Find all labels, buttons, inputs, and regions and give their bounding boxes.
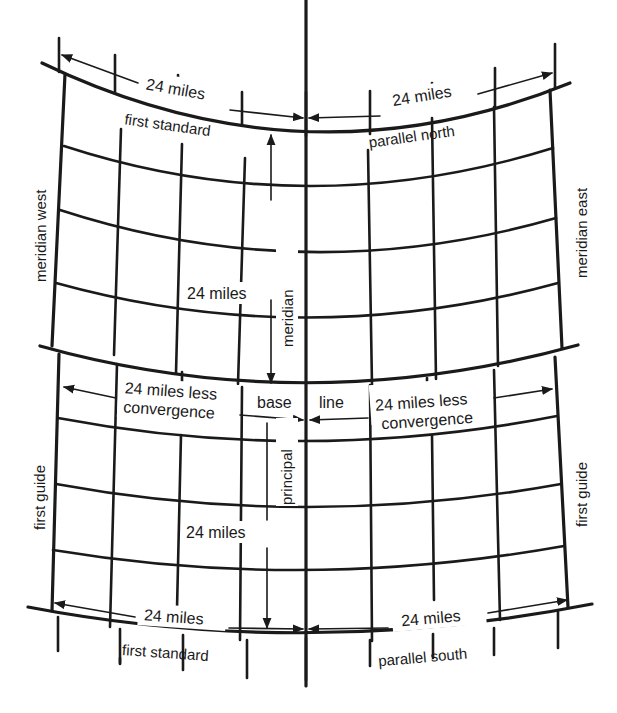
arrow-baseline-right (310, 418, 368, 420)
first-guide-meridian-west-lower (52, 354, 59, 611)
label-principal-meridian-lower: principal (278, 449, 295, 505)
label-first-guide-west: first guide (31, 465, 48, 530)
label-parallel-south: parallel south (377, 645, 467, 670)
label-line: line (319, 394, 344, 411)
arrow-bottom-right (309, 628, 388, 629)
label-meridian-east: meridian east (573, 187, 590, 278)
label-first-standard-north: first standard (124, 110, 212, 139)
label-upper-vertical-distance: 24 miles (187, 285, 247, 302)
first-guide-meridian-east-lower (555, 357, 568, 607)
survey-grid-diagram: 24 miles 24 miles first standard paralle… (0, 0, 617, 713)
label-first-guide-east-visible: first guide (573, 462, 590, 527)
label-base: base (257, 394, 292, 411)
label-lower-vertical-distance: 24 miles (186, 524, 246, 541)
label-first-standard-south: first standard (122, 641, 210, 664)
label-meridian-west: meridian west (32, 189, 49, 282)
township-lines-south (53, 416, 564, 570)
label-principal-meridian-upper: meridian (279, 289, 296, 347)
dimension-arrows (55, 55, 567, 629)
arrow-baseline-left (64, 387, 116, 398)
